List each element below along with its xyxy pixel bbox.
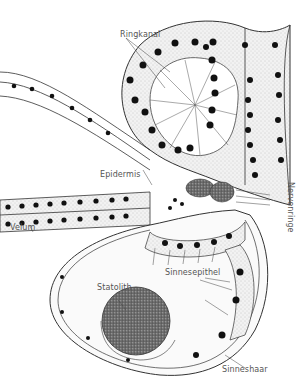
label-ringkanal: Ringkanal: [120, 30, 160, 39]
statocyst-diagram: Ringkanal Epidermis Velum Nervenringe Si…: [0, 0, 302, 391]
label-statolith: Statolith: [97, 283, 132, 292]
label-sinnesepithel: Sinnesepithel: [165, 268, 220, 277]
label-nervenringe: Nervenringe: [286, 182, 295, 233]
statocyst: [50, 210, 268, 375]
nerve-rings: [168, 179, 234, 210]
diagram-drawing: [0, 0, 302, 391]
label-epidermis: Epidermis: [100, 170, 141, 179]
label-sinneshaar: Sinneshaar: [222, 365, 268, 374]
ring-canal: [122, 21, 290, 205]
label-velum: Velum: [10, 223, 35, 232]
